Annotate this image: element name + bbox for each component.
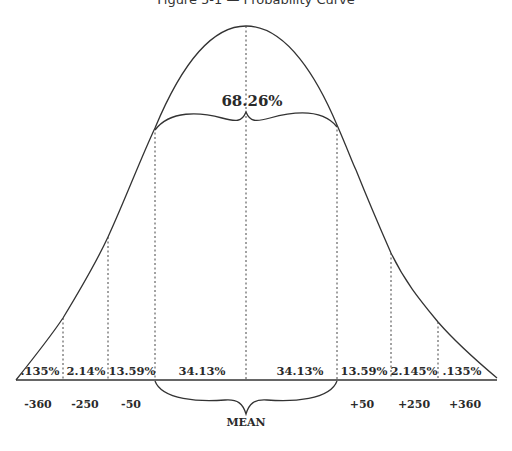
segment-label: .135% [443,364,482,378]
segment-label: 2.14% [67,364,106,378]
sigma-dividers [63,26,438,380]
bell-curve-plot [0,0,512,451]
segment-label: 34.13% [179,364,226,378]
center-percent-label: 68.26% [221,92,282,110]
x-tick-label: +250 [398,398,430,411]
x-tick-label: -50 [121,398,141,411]
bottom-brace [155,381,337,414]
x-tick-label: +50 [350,398,375,411]
x-tick-label: -250 [71,398,99,411]
segment-label: 34.13% [277,364,324,378]
segment-label: .135% [21,364,60,378]
bell-curve-chart: Figure 5-1 — Probability Curve .135% 2.1… [0,0,512,451]
mean-label: MEAN [226,416,265,429]
x-tick-label: +360 [449,398,481,411]
bell-curve [16,26,497,380]
segment-label: 13.59% [341,364,388,378]
segment-label: 13.59% [109,364,156,378]
x-tick-label: -360 [24,398,52,411]
segment-label: 2.145% [391,364,438,378]
